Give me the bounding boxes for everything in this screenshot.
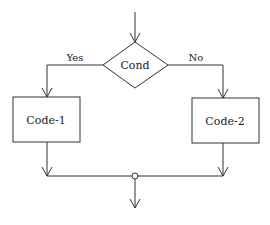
decision-label: Cond bbox=[120, 59, 149, 72]
yes-label: Yes bbox=[66, 52, 84, 63]
process-label-code-2: Code-2 bbox=[205, 115, 244, 128]
junction-circle-icon bbox=[132, 173, 138, 179]
process-label-code-1: Code-1 bbox=[26, 114, 65, 127]
yes-connector bbox=[47, 65, 103, 97]
no-connector bbox=[168, 65, 223, 98]
flowchart: Cond Yes No Code-1 Code-2 bbox=[0, 0, 270, 225]
no-label: No bbox=[189, 52, 204, 63]
